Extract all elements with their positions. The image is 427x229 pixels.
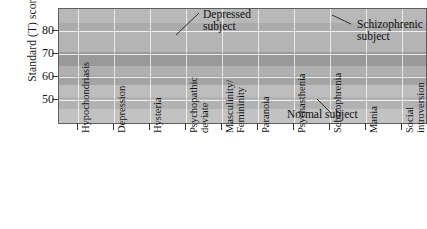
- x-tick-mark-5: [221, 123, 222, 130]
- x-tick-mark-8: [329, 123, 330, 130]
- x-category-label-hypochondriasis: Hypochondriasis: [81, 23, 92, 133]
- x-tick-mark-3: [149, 123, 150, 130]
- figure-mmpi-profile-chart: Standard (T) score 80 70 60 50: [0, 0, 427, 229]
- x-category-label-mania: Mania: [369, 23, 380, 133]
- x-category-label-hysteria: Hysteria: [153, 23, 164, 133]
- x-tick-mark-6: [257, 123, 258, 130]
- x-category-label-depression: Depression: [117, 23, 128, 133]
- x-tick-mark-2: [113, 123, 114, 130]
- y-tick-label-50: 50: [32, 93, 54, 105]
- x-category-label-schizophrenia: Schizophrenia: [333, 23, 344, 133]
- x-category-label-social-introversion: Social introversion: [405, 23, 426, 133]
- x-tick-mark-7: [293, 123, 294, 130]
- x-category-label-psychasthenia: Psychasthenia: [297, 23, 308, 133]
- x-category-label-psychopathic-deviate: Psychopathic deviate: [189, 23, 210, 133]
- y-tick-label-80: 80: [32, 24, 54, 36]
- x-category-label-paranoia: Paranoia: [261, 23, 272, 133]
- x-tick-mark-1: [77, 123, 78, 130]
- y-tick-label-70: 70: [32, 47, 54, 59]
- y-axis-tick-labels: 80 70 60 50: [30, 0, 54, 130]
- x-tick-mark-4: [185, 123, 186, 130]
- x-tick-mark-10: [401, 123, 402, 130]
- y-tick-label-60: 60: [32, 70, 54, 82]
- x-tick-mark-9: [365, 123, 366, 130]
- x-category-label-masculinity-femininity: Masculinity/ Femininity: [225, 23, 246, 133]
